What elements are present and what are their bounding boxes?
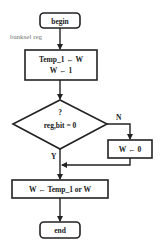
no-label: N <box>116 113 122 122</box>
end-node: end <box>40 222 80 238</box>
yes-label: Y <box>51 152 57 161</box>
assign1-line2: W ← 1 <box>50 66 73 75</box>
begin-node: begin <box>40 13 80 28</box>
decision-node: ? reg,bit = 0 <box>13 100 107 149</box>
assign-or-node: W ← Temp_1 or W <box>12 180 108 198</box>
edge-decision-no <box>107 124 130 139</box>
end-label: end <box>54 226 67 235</box>
decision-line1: ? <box>58 108 62 117</box>
flowchart-canvas: begin banksel reg Temp_1 ← W W ← 1 ? reg… <box>0 0 163 247</box>
assign1-line1: Temp_1 ← W <box>39 55 84 64</box>
edge-assign-zero-merge <box>62 158 130 165</box>
begin-label: begin <box>51 17 69 26</box>
banksel-label: banksel reg <box>10 33 43 41</box>
assign-zero-label: W ← 0 <box>119 145 142 154</box>
assign-zero-node: W ← 0 <box>108 140 152 158</box>
assign1-node: Temp_1 ← W W ← 1 <box>25 50 97 80</box>
flowchart-svg: begin banksel reg Temp_1 ← W W ← 1 ? reg… <box>0 0 163 247</box>
decision-line2: reg,bit = 0 <box>44 121 77 130</box>
assign-or-label: W ← Temp_1 or W <box>29 185 92 194</box>
